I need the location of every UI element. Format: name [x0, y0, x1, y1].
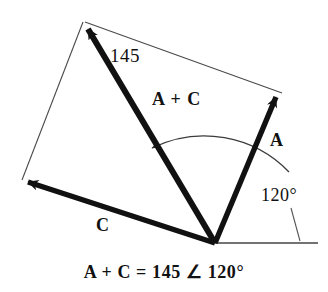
resultant-magnitude-label: 145 — [110, 46, 140, 65]
figure-caption-equation: A + C = 145 ∠ 120° — [0, 261, 328, 283]
angle-label-leader-line — [291, 208, 300, 241]
vector-a-label: A — [270, 131, 283, 149]
vector-diagram-figure: 145 A + C A C 120° A + C = 145 ∠ 120° — [0, 0, 328, 292]
angle-measure-label: 120° — [261, 186, 297, 204]
construction-line-parallel-to-a — [22, 22, 83, 180]
vector-a-arrow — [215, 97, 276, 243]
resultant-vector-label: A + C — [152, 90, 201, 108]
vector-c-label: C — [96, 216, 109, 234]
